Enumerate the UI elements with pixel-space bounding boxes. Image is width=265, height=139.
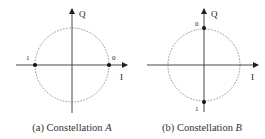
constellation-point-1 [33, 63, 37, 67]
caption-b-variable: B [236, 122, 243, 133]
q-axis-label: Q [211, 9, 218, 19]
point-label-0: 0 [195, 20, 199, 28]
q-axis-label: Q [79, 9, 86, 19]
caption-b: (b) Constellation B [162, 122, 243, 134]
caption-a-variable: A [104, 122, 112, 133]
constellation-a-diagram: Q I 1 0 [16, 9, 127, 113]
point-label-0: 0 [112, 54, 116, 62]
constellation-figure: Q I 1 0 Q I 0 1 (a) Constellation A (b) … [0, 0, 265, 139]
caption-b-text: (b) Constellation [162, 122, 236, 134]
point-label-1: 1 [195, 105, 199, 113]
i-axis-label: I [120, 72, 123, 82]
constellation-b-diagram: Q I 0 1 [147, 9, 258, 113]
caption-a-text: (a) Constellation [32, 122, 105, 134]
i-axis-label: I [251, 72, 254, 82]
point-label-1: 1 [26, 54, 30, 62]
constellation-point-0 [202, 26, 206, 30]
constellation-point-0 [107, 63, 111, 67]
constellation-point-1 [202, 100, 206, 104]
caption-a: (a) Constellation A [32, 122, 112, 134]
